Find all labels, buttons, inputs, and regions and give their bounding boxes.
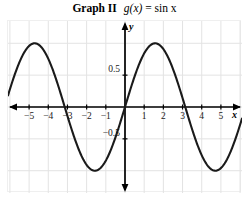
plot-area: −5−4−3−2−112345 0.5−0.5 x y xyxy=(7,20,241,192)
chart-title-function: g(x) xyxy=(124,2,143,14)
x-axis-name: x xyxy=(232,110,237,120)
y-axis-name: y xyxy=(129,22,133,32)
x-tick-label: 2 xyxy=(154,111,172,121)
x-tick-label: −3 xyxy=(58,111,76,121)
y-axis-arrow-up xyxy=(122,22,129,30)
chart-title-label: Graph II xyxy=(72,2,116,14)
chart-title-expression: sin x xyxy=(155,2,177,14)
x-tick-label: −2 xyxy=(78,111,96,121)
x-tick-label: 3 xyxy=(174,111,192,121)
y-tick-label: −0.5 xyxy=(93,128,120,138)
plot-svg xyxy=(8,21,242,193)
x-tick-label: −4 xyxy=(39,111,57,121)
x-tick-label: 5 xyxy=(212,111,230,121)
x-tick-label: −5 xyxy=(20,111,38,121)
y-axis-arrow-down xyxy=(122,184,129,192)
y-tick-label: 0.5 xyxy=(93,64,120,74)
chart-title: Graph IIg(x) = sin x xyxy=(0,1,249,15)
x-tick-label: 4 xyxy=(193,111,211,121)
chart-title-equals: = xyxy=(145,2,152,14)
figure: Graph IIg(x) = sin x −5−4−3−2−112345 0.5… xyxy=(0,0,249,198)
x-tick-label: 1 xyxy=(135,111,153,121)
x-tick-label: −1 xyxy=(97,111,115,121)
